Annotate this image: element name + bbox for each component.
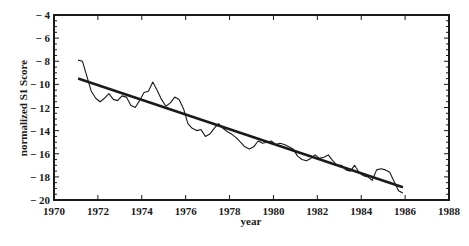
series-layer (78, 60, 403, 193)
x-tick-label: 1974 (131, 205, 154, 217)
y-tick-label: − 6 (35, 32, 50, 44)
y-tick-label: − 14 (30, 125, 51, 137)
data-line (78, 60, 403, 193)
x-axis-title: year (241, 215, 262, 227)
x-tick-label: 1982 (306, 205, 329, 217)
y-tick-label: − 16 (30, 148, 51, 160)
trend-line (78, 79, 403, 188)
x-tick-label: 1970 (43, 205, 66, 217)
y-axis: − 4− 6− 8− 10− 12− 14− 16− 18− 20 (30, 9, 449, 206)
x-tick-label: 1986 (394, 205, 417, 217)
x-tick-label: 1978 (219, 205, 242, 217)
y-tick-label: − 4 (35, 9, 50, 21)
y-tick-label: − 18 (30, 171, 51, 183)
x-tick-label: 1984 (350, 205, 373, 217)
y-tick-label: − 10 (30, 78, 51, 90)
x-tick-label: 1972 (87, 205, 110, 217)
x-tick-label: 1980 (262, 205, 285, 217)
y-tick-label: − 8 (35, 55, 50, 67)
x-tick-label: 1976 (175, 205, 198, 217)
x-tick-label: 1988 (438, 205, 461, 217)
y-tick-label: − 12 (30, 102, 51, 114)
y-axis-title: normalized S1 Score (17, 60, 29, 156)
chart: − 4− 6− 8− 10− 12− 14− 16− 18− 20 197019… (0, 0, 469, 246)
